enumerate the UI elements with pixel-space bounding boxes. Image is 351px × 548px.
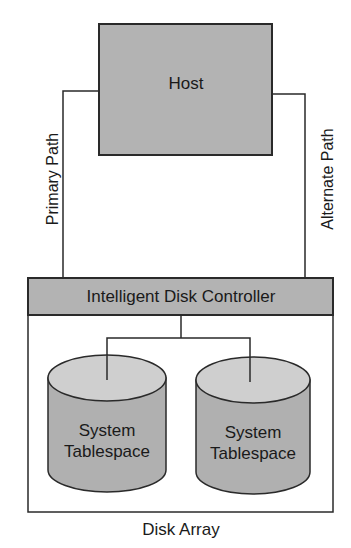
primary-path-label: Primary Path	[44, 114, 62, 244]
disk-1-label-line2: Tablespace	[48, 441, 166, 462]
host-label: Host	[98, 74, 274, 94]
alternate-path-label: Alternate Path	[319, 109, 337, 249]
disk-2-label-line1: System	[196, 422, 310, 443]
primary-path-line	[63, 91, 99, 278]
controller-label: Intelligent Disk Controller	[28, 287, 334, 307]
disk-array-label: Disk Array	[28, 520, 334, 540]
disk-2-label: System Tablespace	[196, 422, 310, 464]
disk-2-label-line2: Tablespace	[196, 443, 310, 464]
alternate-path-line	[272, 94, 305, 278]
disk-1-label-line1: System	[48, 420, 166, 441]
disk-1-label: System Tablespace	[48, 420, 166, 462]
